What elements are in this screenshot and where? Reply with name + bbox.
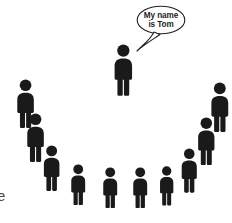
- person-figure-listener-4: [66, 164, 90, 205]
- speech-bubble-tail: [137, 32, 160, 51]
- speech-line-2: is Tom: [148, 20, 173, 29]
- person-icon: [98, 167, 122, 208]
- person-figure-listener-10: [205, 82, 232, 132]
- person-figure-speaker-tom: [108, 44, 139, 96]
- person-icon: [128, 167, 152, 208]
- person-icon: [108, 44, 139, 96]
- person-figure-listener-3: [38, 145, 65, 191]
- speech-line-1: My name: [144, 11, 178, 20]
- speech-bubble-text: My nameis Tom: [136, 11, 186, 29]
- person-figure-listener-6: [128, 167, 152, 208]
- cropped-corner-letter: e: [0, 188, 5, 203]
- illustration-canvas: My nameis Tome: [0, 0, 232, 223]
- person-icon: [38, 145, 65, 191]
- person-icon: [205, 82, 232, 132]
- person-figure-listener-5: [98, 167, 122, 208]
- person-figure-listener-7: [155, 166, 178, 206]
- person-icon: [66, 164, 90, 205]
- person-icon: [155, 166, 178, 206]
